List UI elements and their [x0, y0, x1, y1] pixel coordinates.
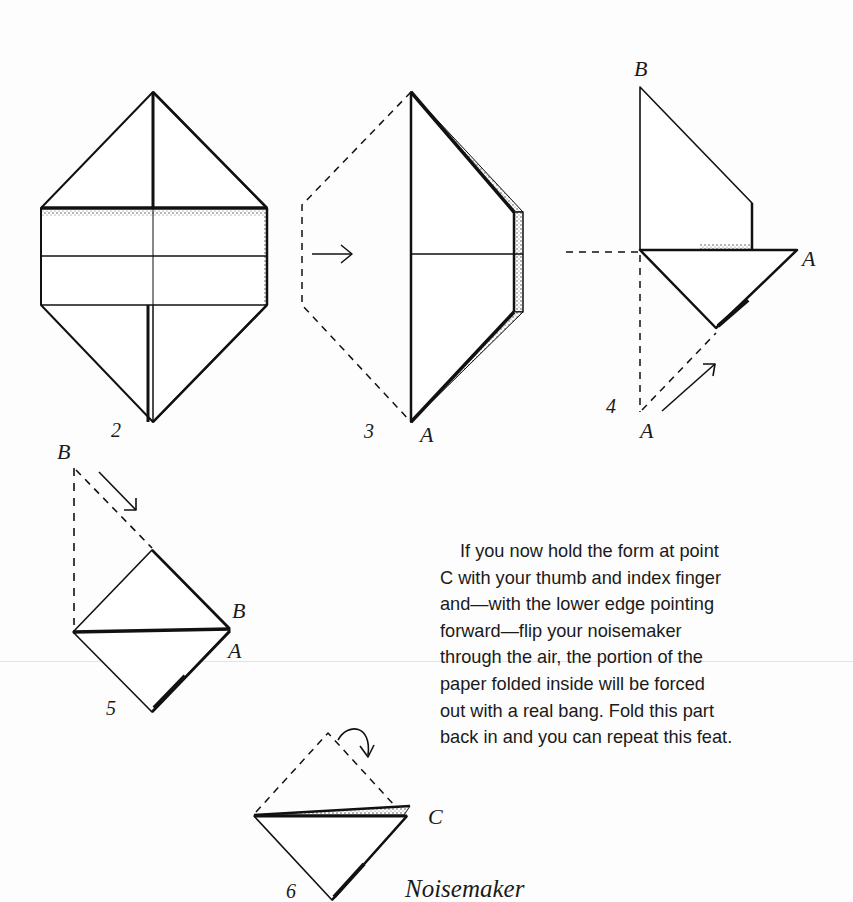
figure-4-point-a-bottom: A	[640, 420, 653, 442]
figure-5-point-b-right: B	[232, 600, 245, 622]
instructions-paragraph: If you now hold the form at point C with…	[440, 538, 850, 751]
figure-5-number: 5	[106, 698, 116, 718]
figure-6-diagram	[254, 729, 410, 900]
figure-4-point-a-right: A	[802, 248, 815, 270]
figure-2-number: 2	[111, 420, 121, 440]
figure-5-point-b-top: B	[57, 441, 70, 463]
instruction-line: paper folded inside will be forced	[440, 671, 850, 698]
arrow-right-icon	[312, 245, 352, 263]
figure-3-number: 3	[364, 421, 374, 441]
figure-6-point-c: C	[428, 806, 443, 828]
figure-6-number: 6	[286, 881, 296, 901]
instruction-line: back in and you can repeat this feat.	[440, 724, 850, 751]
instruction-line: forward—flip your noisemaker	[440, 618, 850, 645]
arrow-down-right-icon	[99, 472, 136, 510]
figure-2-diagram	[41, 92, 267, 422]
figure-4-diagram	[566, 87, 797, 412]
figure-4-point-b: B	[634, 58, 647, 80]
figure-4-number: 4	[606, 396, 616, 416]
figure-3-point-a: A	[420, 424, 433, 446]
figure-6-caption: Noisemaker	[405, 876, 524, 901]
figure-5-point-a-right: A	[228, 640, 241, 662]
arrow-up-right-icon	[662, 364, 715, 411]
book-page: 2 3 A B A 4 A B B A 5 C 6 Noisemaker If …	[0, 0, 853, 902]
arrow-curve-fold-back-icon	[338, 729, 374, 757]
instruction-line: C with your thumb and index finger	[440, 565, 850, 592]
instruction-line: through the air, the portion of the	[440, 644, 850, 671]
figure-5-diagram	[73, 468, 230, 712]
origami-diagrams	[0, 0, 853, 902]
instruction-line: If you now hold the form at point	[440, 538, 850, 565]
instruction-line: out with a real bang. Fold this part	[440, 698, 850, 725]
figure-3-diagram	[302, 92, 523, 422]
instruction-line: and—with the lower edge pointing	[440, 591, 850, 618]
